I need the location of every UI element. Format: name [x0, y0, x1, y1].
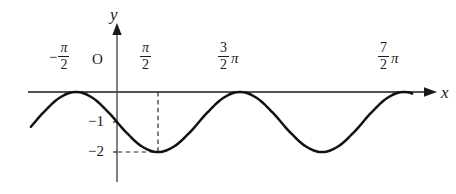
fraction-7-over-2: 7 2	[378, 41, 389, 73]
fraction-denominator: 2	[140, 57, 151, 72]
fraction-numerator: 7	[378, 41, 389, 57]
y-axis-label: y	[110, 6, 118, 23]
fraction-numerator: π	[58, 41, 69, 57]
origin-label: O	[92, 52, 103, 67]
fraction-numerator: π	[140, 41, 151, 57]
y-tick-label-minus-one: −1	[88, 114, 104, 129]
y-axis	[112, 23, 121, 182]
fraction-3-over-2: 3 2	[218, 41, 229, 73]
fraction-denominator: 2	[378, 57, 389, 72]
fraction-denominator: 2	[218, 57, 229, 72]
x-tick-label-half-pi: π 2	[140, 42, 151, 74]
x-tick-label-three-halves-pi: 3 2 π	[218, 42, 239, 74]
x-axis-arrowhead	[424, 87, 437, 97]
x-tick-label-seven-halves-pi: 7 2 π	[378, 42, 399, 74]
fraction-denominator: 2	[58, 57, 69, 72]
trailing-pi: π	[231, 51, 239, 66]
x-axis-label: x	[441, 84, 449, 101]
x-tick-label-neg-half-pi: − π 2	[49, 42, 69, 74]
graph-canvas	[0, 0, 456, 194]
y-axis-arrowhead	[112, 23, 121, 35]
math-graph-figure: − π 2 O π 2 3 2 π 7 2 π −1 −2 y x	[0, 0, 456, 194]
fraction-numerator: 3	[218, 41, 229, 57]
trailing-pi: π	[391, 51, 399, 66]
fraction-pi-over-2: π 2	[140, 41, 151, 73]
minus-sign: −	[49, 50, 57, 65]
fraction-pi-over-2: π 2	[58, 41, 69, 73]
y-tick-label-minus-two: −2	[88, 144, 104, 159]
